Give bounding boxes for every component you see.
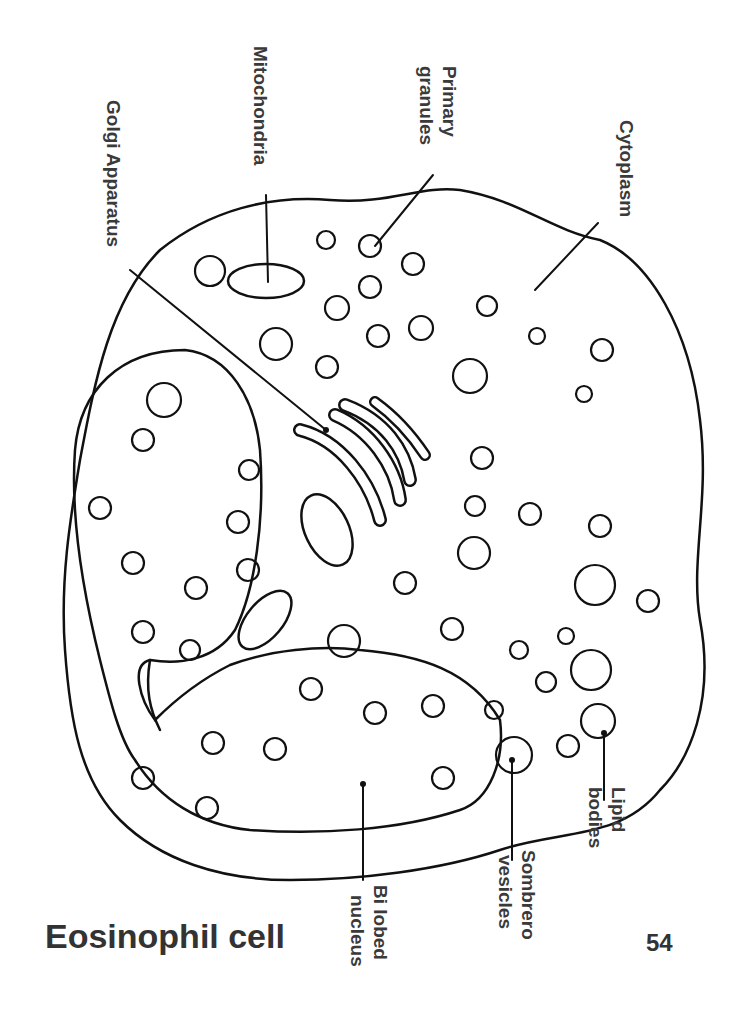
- label-sombrero-1: Sombrero: [518, 850, 538, 940]
- mitochondrion-2: [291, 486, 363, 573]
- label-sombrero-2: vesicles: [495, 855, 515, 929]
- label-primary-granules-1: Primary: [439, 66, 459, 137]
- mitochondrion-1: [228, 264, 304, 298]
- nucleus-lobe-1: [74, 350, 501, 832]
- label-lipid-1: Lipid: [608, 787, 628, 832]
- page-number: 54: [646, 930, 673, 955]
- label-golgi-apparatus: Golgi Apparatus: [103, 100, 123, 247]
- label-primary-granules-2: granules: [416, 66, 436, 145]
- leader-lines: [130, 175, 604, 880]
- diagram-title: Eosinophil cell: [45, 919, 285, 955]
- label-nucleus-2: nucleus: [347, 895, 367, 967]
- label-nucleus-1: Bi lobed: [370, 885, 390, 960]
- label-mitochondria: Mitochondria: [250, 46, 270, 165]
- label-lipid-2: bodies: [585, 787, 605, 848]
- label-cytoplasm: Cytoplasm: [616, 120, 636, 217]
- granules: [89, 231, 659, 819]
